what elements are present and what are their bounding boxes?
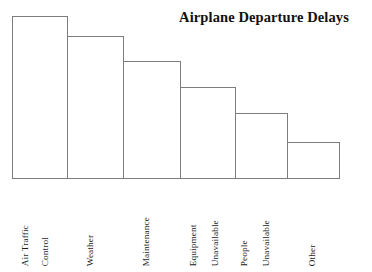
tick-label-air-traffic: Air Traffic [21,225,30,266]
x-axis-tick-labels: Air Traffic Control Weather Maintenance … [0,180,372,272]
x-axis-baseline [12,178,339,179]
tick-label-unavailable-equipment: Unavailable [211,220,220,266]
plot-area [0,0,372,186]
bar-other [287,142,340,179]
bar-people-unavailable [235,113,288,179]
bar-weather [67,36,124,179]
bar-air-traffic-control [12,16,68,179]
tick-label-unavailable-people: Unavailable [262,220,271,266]
tick-label-equipment: Equipment [189,224,198,266]
bar-maintenance [123,61,181,179]
tick-label-people: People [240,240,249,266]
pareto-bar-chart: Airplane Departure Delays Air Traffic Co… [0,0,372,272]
tick-label-maintenance: Maintenance [142,217,151,266]
tick-label-weather: Weather [86,235,95,266]
tick-label-control: Control [41,237,50,266]
tick-label-other: Other [308,244,317,266]
bar-equipment-unavailable [180,87,236,179]
